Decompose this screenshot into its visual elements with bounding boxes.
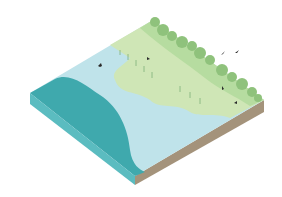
wetland-illustration [0,0,282,197]
bird-icon [221,51,225,55]
bird-icon [235,50,239,53]
